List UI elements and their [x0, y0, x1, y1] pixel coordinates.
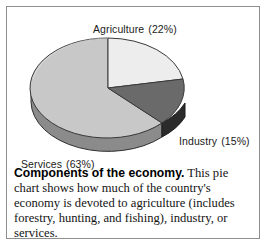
- pie-label-industry-name: Industry: [179, 135, 217, 147]
- pie-label-industry: Industry(15%): [179, 135, 250, 147]
- pie-label-industry-percent: (15%): [221, 135, 250, 147]
- figure-caption-lead: Components of the economy.: [14, 166, 184, 180]
- figure-caption: Components of the economy. This pie char…: [14, 166, 252, 241]
- pie-label-agriculture-name: Agriculture: [93, 23, 144, 35]
- pie-chart-area: Agriculture(22%) Industry(15%) Services(…: [7, 7, 259, 162]
- pie-label-agriculture-percent: (22%): [148, 23, 177, 35]
- pie-label-agriculture: Agriculture(22%): [93, 23, 177, 35]
- figure-container: Agriculture(22%) Industry(15%) Services(…: [0, 0, 274, 248]
